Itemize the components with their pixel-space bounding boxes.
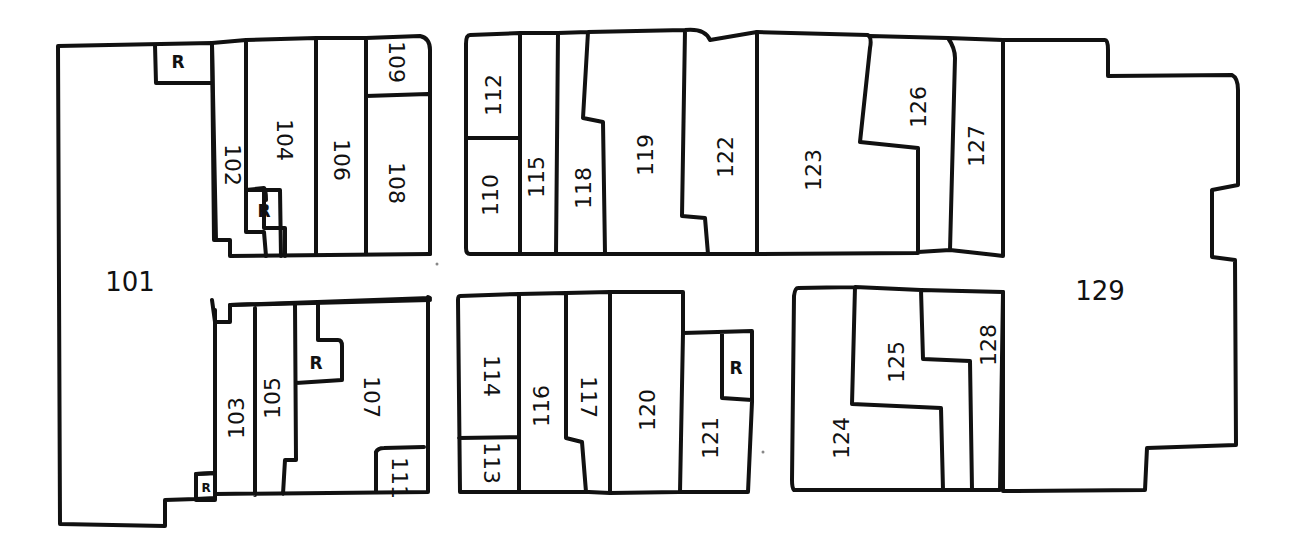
restroom-label: R [201,481,210,495]
restroom-label: R [309,353,322,373]
room-label-110: 110 [478,174,503,216]
room-label-127: 127 [964,125,989,167]
room-label-119: 119 [633,134,658,176]
room-label-115: 115 [524,156,549,198]
room-label-105: 105 [260,377,285,419]
room-label-116: 116 [529,385,554,427]
room-101-right-wall [212,45,216,473]
room-label-117: 117 [576,376,601,418]
stray-mark [762,451,765,454]
room-label-108: 108 [384,162,409,204]
restroom-label: R [257,201,270,221]
room-label-128: 128 [976,324,1001,366]
room-label-122: 122 [713,136,738,178]
room-label-106: 106 [329,139,354,181]
room-label-118: 118 [571,167,596,209]
room-label-124: 124 [829,417,854,459]
room-label-125: 125 [884,341,909,383]
room-label-112: 112 [481,74,506,116]
room-label-107: 107 [359,376,384,418]
room-label-103: 103 [224,397,249,439]
restroom-label: R [729,358,742,378]
floor-plan: 1011021031041051061071081091101111121131… [0,0,1299,550]
room-label-104: 104 [272,119,297,161]
room-label-120: 120 [635,389,660,431]
room-label-129: 129 [1075,276,1125,306]
room-label-126: 126 [906,86,931,128]
wall-outlines [58,30,1238,526]
room-label-121: 121 [698,417,723,459]
room-label-113: 113 [479,442,504,484]
room-label-114: 114 [479,355,504,397]
room-label-102: 102 [220,144,245,186]
restroom-label: R [171,52,184,72]
right-bottom-block [792,287,1003,490]
room-label-111: 111 [387,457,412,499]
room-label-109: 109 [384,41,409,83]
room-label-101: 101 [105,267,155,297]
room-label-123: 123 [801,149,826,191]
stray-mark [436,263,439,266]
